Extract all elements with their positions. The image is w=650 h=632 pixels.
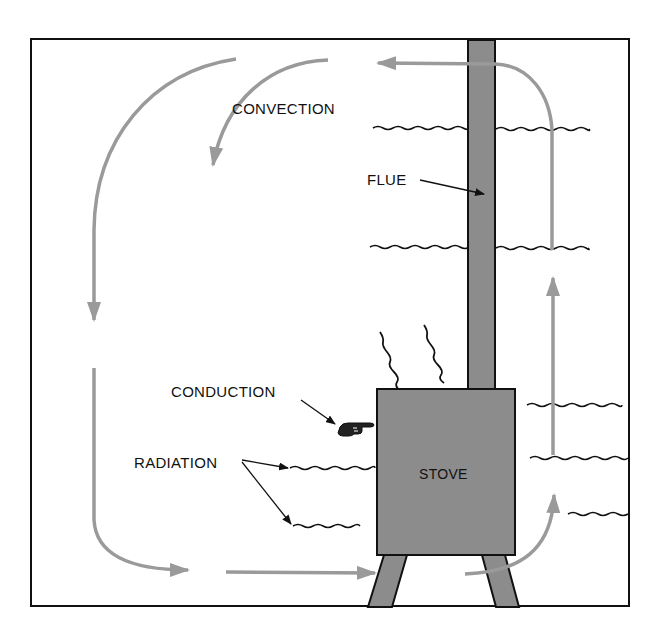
convection-arrow-floor [226, 572, 375, 573]
radiation-label: RADIATION [134, 454, 217, 471]
flue-label: FLUE [367, 171, 407, 188]
heat-transfer-diagram: STOVE CONVECTION FLUE CONDUCTION RADIATI… [0, 0, 650, 632]
radiation-pointer-arrow-upper [242, 460, 288, 468]
radiation-waves [290, 467, 375, 528]
convection-label: CONVECTION [232, 100, 335, 117]
room-frame [31, 39, 629, 606]
radiation-pointer-arrow-lower [242, 462, 291, 524]
convection-arrow-outer-left [94, 59, 236, 320]
conduction-pointer-arrow [301, 400, 335, 424]
stove-leg-left [368, 555, 407, 607]
convection-arrow-ceiling [378, 63, 552, 250]
conduction-label: CONDUCTION [171, 383, 276, 400]
stove-label: STOVE [419, 466, 468, 482]
flue-pipe [468, 40, 495, 390]
heat-rising-lines [380, 325, 444, 398]
pointing-hand-icon [338, 423, 374, 436]
